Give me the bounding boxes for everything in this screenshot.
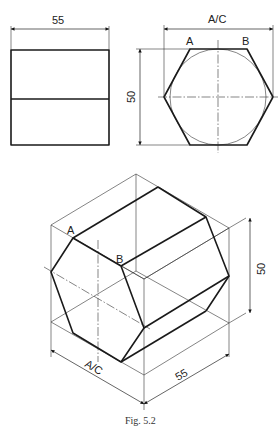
hexagonal-prism (51, 187, 229, 362)
vertex-a-label: A (186, 35, 194, 47)
vertex-b-label: B (242, 35, 249, 47)
iso-across-corners-label: A/C (83, 357, 105, 377)
front-view-outline (11, 50, 109, 145)
height-label: 50 (125, 91, 137, 103)
front-width-label: 55 (52, 14, 64, 26)
isometric-view: A B 50 A/C 55 (44, 174, 267, 410)
iso-length-dimension-line (144, 354, 229, 404)
extension-line (229, 313, 246, 323)
technical-drawing: 55 A/C 50 A B (0, 0, 278, 428)
front-view: 55 (11, 14, 109, 145)
front-hexagon-face (51, 238, 144, 362)
extension-line (229, 218, 246, 228)
end-view: A/C 50 A B (125, 13, 278, 153)
iso-vertex-b-label: B (116, 253, 123, 265)
iso-vertex-a-label: A (67, 224, 75, 236)
iso-construction-line (144, 228, 229, 279)
iso-across-corners-dimension-line (51, 350, 144, 404)
figure-caption: Fig. 5.2 (125, 415, 156, 426)
bounding-box (51, 174, 229, 375)
across-corners-label: A/C (208, 13, 226, 25)
iso-height-label: 50 (255, 263, 267, 275)
iso-length-label: 55 (173, 366, 190, 383)
